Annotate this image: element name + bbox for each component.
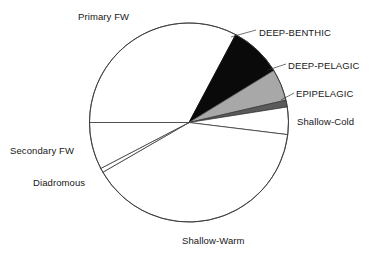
pie-slice-group bbox=[90, 23, 289, 222]
slice-label-deep-benthic: DEEP-BENTHIC bbox=[259, 27, 331, 38]
pie-chart-figure: Primary FW DEEP-BENTHIC DEEP-PELAGIC EPI… bbox=[0, 0, 378, 255]
slice-label-epipelagic: EPIPELAGIC bbox=[296, 88, 354, 99]
slice-label-primary-fw: Primary FW bbox=[78, 11, 129, 22]
slice-label-deep-pelagic: DEEP-PELAGIC bbox=[288, 60, 359, 71]
pie-chart-canvas bbox=[0, 0, 378, 255]
slice-label-shallow-warm: Shallow-Warm bbox=[182, 235, 245, 246]
slice-label-secondary-fw: Secondary FW bbox=[10, 145, 74, 156]
slice-label-shallow-cold: Shallow-Cold bbox=[297, 116, 354, 127]
slice-label-diadromous: Diadromous bbox=[33, 177, 85, 188]
leader-line-deep-benthic bbox=[231, 30, 256, 37]
